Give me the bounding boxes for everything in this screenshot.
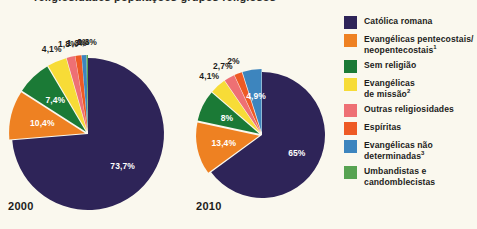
legend-item[interactable]: Evangélicasde missão2 (344, 78, 477, 99)
pie-value-label: 0,3% (77, 37, 97, 47)
pie-value-label: 4,9% (246, 91, 266, 101)
legend-item-label: Umbandistas ecandomblecistas (364, 166, 435, 187)
legend-swatch-icon (344, 34, 357, 47)
legend-swatch-icon (344, 78, 357, 91)
pie-value-label: 7,4% (45, 95, 65, 105)
pie-value-label: 73,7% (110, 161, 135, 171)
pie-value-label: 8% (221, 113, 234, 123)
legend-item-label: Evangélicas nãodeterminadas3 (364, 140, 433, 161)
legend-item-label: Evangélicas pentecostais/neopentecostais… (364, 34, 474, 55)
cutoff-header-text: religiosidades populações grupos religio… (34, 0, 276, 3)
pie-value-label: 4,1% (199, 71, 219, 81)
cutoff-header-strip: religiosidades populações grupos religio… (0, 0, 477, 7)
legend-item-label: Espíritas (364, 122, 401, 133)
legend-item[interactable]: Espíritas (344, 122, 477, 135)
legend-swatch-icon (344, 60, 357, 73)
legend: Católica romanaEvangélicas pentecostais/… (344, 16, 477, 192)
year-label-2000: 2000 (8, 200, 34, 212)
year-label-2010: 2010 (196, 200, 222, 212)
pie-value-label: 10,4% (30, 118, 55, 128)
legend-item[interactable]: Umbandistas ecandomblecistas (344, 166, 477, 187)
legend-item[interactable]: Católica romana (344, 16, 477, 29)
legend-item[interactable]: Evangélicas pentecostais/neopentecostais… (344, 34, 477, 55)
pie-value-label: 65% (288, 148, 305, 158)
pie-value-label: 13,4% (212, 138, 237, 148)
legend-item[interactable]: Evangélicas nãodeterminadas3 (344, 140, 477, 161)
pie-value-label: 2% (227, 56, 240, 66)
legend-item-label: Outras religiosidades (364, 104, 454, 115)
legend-item[interactable]: Outras religiosidades (344, 104, 477, 117)
legend-item-label: Sem religião (364, 60, 416, 71)
legend-item[interactable]: Sem religião (344, 60, 477, 73)
legend-item-label: Católica romana (364, 16, 432, 27)
legend-swatch-icon (344, 16, 357, 29)
legend-item-label: Evangélicasde missão2 (364, 78, 415, 99)
legend-swatch-icon (344, 166, 357, 179)
legend-swatch-icon (344, 104, 357, 117)
chart-canvas: religiosidades populações grupos religio… (0, 0, 477, 229)
legend-swatch-icon (344, 122, 357, 135)
legend-swatch-icon (344, 140, 357, 153)
pie-chart-2000 (0, 28, 194, 229)
